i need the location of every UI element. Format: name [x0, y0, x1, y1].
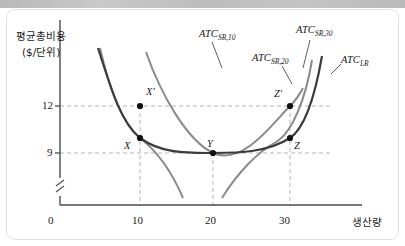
curve-label-main: ATC [199, 28, 218, 39]
point-label-Z-prime: Z′ [274, 88, 282, 99]
figure-card: 평균총비용 ($/단위) 생산량 12 9 0 10 20 30 X X′ Y … [0, 0, 405, 246]
point-label-X: X [124, 140, 130, 151]
x-axis-title: 생산량 [352, 214, 382, 229]
curve-label-sub: SR,20 [271, 57, 289, 66]
point-Z-prime [287, 103, 293, 109]
curve-label-atc-lr: ATCLR [341, 54, 369, 68]
point-Z [287, 135, 293, 141]
y-tick-12: 12 [42, 99, 53, 111]
origin-tick-0: 0 [48, 214, 54, 226]
curve-label-atc-sr-20: ATCSR,20 [252, 52, 289, 66]
guide-lines [60, 106, 330, 205]
x-tick-20: 20 [205, 214, 216, 226]
y-tick-9: 9 [47, 146, 53, 158]
point-X-prime [137, 103, 143, 109]
axis-break-icon [56, 180, 64, 192]
x-tick-10: 10 [132, 214, 143, 226]
x-tick-30: 30 [279, 214, 290, 226]
point-Y [210, 150, 216, 156]
curve-label-sub: SR,30 [315, 29, 333, 38]
point-X [137, 135, 143, 141]
curve-label-sub: SR,10 [218, 33, 236, 42]
axes [55, 20, 362, 205]
y-axis-title-line2: ($/단위) [22, 44, 60, 59]
curve-label-main: ATC [296, 24, 315, 35]
curve-label-main: ATC [252, 52, 271, 63]
point-label-X-prime: X′ [146, 86, 155, 97]
y-axis-title-line1: 평균총비용 [16, 28, 66, 43]
curve-label-sub: LR [360, 59, 369, 68]
point-label-Z: Z [294, 140, 300, 151]
curve-atc-sr-10 [100, 48, 183, 198]
curve-label-atc-sr-30: ATCSR,30 [296, 24, 333, 38]
point-label-Y: Y [207, 138, 213, 149]
curve-label-atc-sr-10: ATCSR,10 [199, 28, 236, 42]
curve-label-main: ATC [341, 54, 360, 65]
